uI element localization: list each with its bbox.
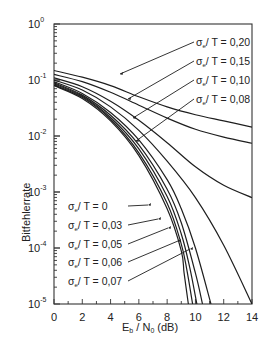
sigma-label: σe/ T = 0,08 — [196, 93, 250, 106]
x-tick-label: 2 — [79, 311, 85, 323]
ber-curve — [54, 83, 203, 304]
ber-curve — [54, 85, 193, 304]
leader-line — [120, 42, 194, 74]
leader-line — [128, 249, 190, 281]
sigma-labels: σe/ T = 0,20σe/ T = 0,15σe/ T = 0,10σe/ … — [68, 36, 250, 288]
ber-chart: 10010-110-210-310-410-5 02468101214 σe/ … — [0, 0, 269, 354]
leader-line — [128, 219, 158, 225]
y-tick-label: 10-1 — [28, 72, 47, 86]
y-tick-label: 10-5 — [28, 296, 47, 310]
sigma-label: σe/ T = 0,03 — [68, 219, 122, 232]
x-tick-label: 12 — [218, 311, 230, 323]
y-axis-ticks: 10010-110-210-310-410-5 — [28, 16, 60, 310]
sigma-label: σe/ T = 0,05 — [68, 238, 122, 251]
leader-line — [128, 228, 168, 244]
leader-line — [136, 99, 194, 141]
leader-line — [128, 205, 148, 206]
sigma-label: σe/ T = 0 — [68, 200, 108, 213]
sigma-label: σe/ T = 0,07 — [68, 275, 122, 288]
y-tick-label: 10-2 — [28, 128, 47, 142]
x-tick-label: 10 — [189, 311, 201, 323]
ber-curve — [54, 80, 252, 304]
x-axis-title: Eb / N0 (dB) — [122, 321, 178, 334]
sigma-label: σe/ T = 0,06 — [68, 256, 122, 269]
sigma-label: σe/ T = 0,10 — [196, 74, 250, 87]
y-tick-label: 100 — [28, 16, 44, 30]
x-axis-ticks: 02468101214 — [51, 299, 258, 323]
sigma-label: σe/ T = 0,15 — [196, 55, 250, 68]
x-tick-label: 0 — [51, 311, 57, 323]
x-tick-label: 4 — [108, 311, 114, 323]
y-axis-title: Bitfehlerrate — [20, 183, 32, 242]
x-tick-label: 14 — [246, 311, 258, 323]
sigma-label: σe/ T = 0,20 — [196, 36, 250, 49]
label-leader-lines — [120, 42, 194, 281]
